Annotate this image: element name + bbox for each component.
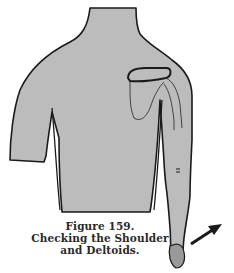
figure-caption: Figure 159. Checking the Shoulder and De…	[30, 220, 170, 256]
arrow-icon	[191, 224, 222, 244]
hand-shape	[169, 244, 184, 268]
figure-title-line1: Checking the Shoulder	[30, 232, 170, 244]
figure-number: Figure 159.	[30, 220, 170, 232]
figure-title-line2: and Deltoids.	[30, 244, 170, 256]
clavicle-outline	[128, 68, 171, 81]
